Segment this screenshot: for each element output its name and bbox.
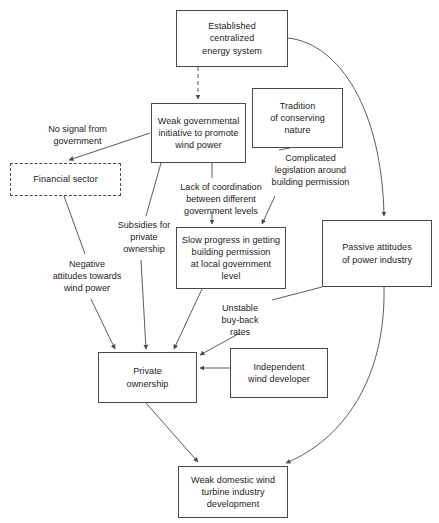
node-label: Passive attitudes of power industry: [342, 241, 412, 265]
edge-label-subsidies-for-private-ownership: Subsidies for private ownership: [113, 219, 175, 256]
node-weak-governmental-initiative[interactable]: Weak governmental initiative to promote …: [151, 103, 246, 163]
node-established-centralized-energy-system[interactable]: Established centralized energy system: [176, 10, 288, 67]
node-label: Private ownership: [127, 365, 169, 389]
edge-label-no-signal-from-government: No signal from government: [20, 123, 135, 147]
node-label: Established centralized energy system: [202, 20, 262, 57]
node-tradition-of-conserving-nature[interactable]: Tradition of conserving nature: [252, 88, 343, 148]
node-label: Weak governmental initiative to promote …: [158, 115, 240, 152]
edge-label-complicated-legislation: Complicated legislation around building …: [257, 152, 364, 189]
node-private-ownership[interactable]: Private ownership: [98, 352, 197, 403]
edge-label-negative-attitudes-towards-wind-power: Negative attitudes towards wind power: [41, 258, 133, 295]
edge-weak-gov-to-private-ownership-arrow: [141, 260, 146, 349]
node-label: Tradition of conserving nature: [270, 100, 325, 137]
edge-financial-sector-to-private-ownership-arrow: [91, 299, 115, 349]
edge-financial-sector-to-private-ownership: [64, 196, 85, 254]
causal-diagram-canvas: Established centralized energy system We…: [0, 0, 439, 523]
edge-weak-gov-to-private-ownership: [146, 163, 161, 216]
edge-label-unstable-buy-back-rates: Unstable buy-back rates: [213, 302, 267, 339]
node-weak-domestic-wind-turbine-industry[interactable]: Weak domestic wind turbine industry deve…: [178, 466, 288, 518]
edge-private-ownership-to-weak-domestic: [146, 403, 198, 462]
edge-slow-progress-to-private-ownership: [174, 289, 202, 349]
node-independent-wind-developer[interactable]: Independent wind developer: [230, 348, 328, 398]
node-label: Weak domestic wind turbine industry deve…: [191, 474, 275, 511]
node-financial-sector[interactable]: Financial sector: [10, 163, 121, 196]
node-passive-attitudes-power-industry[interactable]: Passive attitudes of power industry: [322, 220, 432, 287]
node-label: Financial sector: [33, 173, 97, 185]
node-label: Independent wind developer: [248, 361, 310, 385]
node-label: Slow progress in getting building permis…: [182, 234, 280, 283]
edge-tradition-to-slow-progress: [279, 148, 290, 150]
node-slow-progress-building-permission[interactable]: Slow progress in getting building permis…: [176, 227, 286, 289]
